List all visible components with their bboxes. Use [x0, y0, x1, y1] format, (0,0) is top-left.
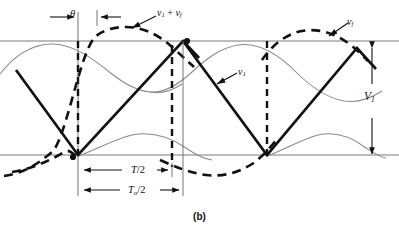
To-half-label-div: /2 [137, 184, 145, 195]
sum-wave-trough [160, 138, 278, 176]
V1-label-base: V [364, 90, 371, 102]
vf-lower-lobe-right [267, 134, 386, 158]
theta-label: θ [70, 9, 75, 20]
sum-wave-label: v1 + vf [157, 8, 182, 19]
vertical-guides [78, 10, 267, 196]
v1-label: v1 [238, 67, 246, 78]
V1-label: V1 [364, 91, 375, 103]
To-half-label: To/2 [128, 185, 145, 196]
V1-label-sub: 1 [371, 95, 375, 104]
sum-wave-left-hump [4, 27, 194, 176]
vf-lower-lobe [78, 134, 386, 160]
vf-curve-midsegment [150, 84, 182, 93]
sum-wave-tail-left [12, 151, 78, 172]
waveform-figure: θ v1 + vf vf v1 V1 T/2 To/2 (b) [0, 0, 399, 237]
vf-lower-lobe-left [78, 134, 212, 160]
figure-caption: (b) [0, 211, 399, 222]
v1-triangle-path [16, 41, 376, 155]
intersection-dot-bottom [70, 154, 76, 160]
T-half-dimension [84, 163, 172, 177]
waveform-canvas [0, 0, 399, 237]
leader-sum-wave [132, 16, 156, 28]
sum-wave-label-vf-sub: f [180, 11, 182, 18]
T-half-label: T/2 [131, 165, 145, 176]
sum-wave-label-plus: + [165, 7, 176, 18]
v1-triangle-wave [16, 41, 376, 155]
leader-v1 [217, 73, 237, 84]
v1-label-sub: 1 [242, 70, 245, 77]
sum-wave-tail-segments [12, 151, 78, 172]
reference-lines [0, 41, 399, 155]
T-half-label-div: /2 [137, 164, 145, 175]
leader-vf [329, 23, 348, 36]
vf-label-sub: f [351, 20, 353, 27]
intersection-dot-top [184, 38, 190, 44]
vf-label: vf [347, 17, 353, 28]
